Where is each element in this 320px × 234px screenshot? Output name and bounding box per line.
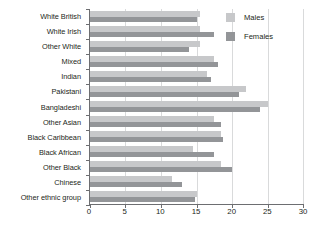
category-label: Other Black: [0, 160, 85, 175]
category-label: Black African: [0, 145, 85, 160]
bar-females: [90, 197, 195, 203]
category-label: Indian: [0, 69, 85, 84]
category-label: White British: [0, 9, 85, 24]
bar-group: [90, 84, 303, 99]
bar-females: [90, 122, 221, 128]
legend-swatch-males-icon: [226, 13, 235, 22]
legend-item-females: Females: [226, 32, 316, 41]
bar-females: [90, 182, 182, 188]
bar-females: [90, 137, 223, 143]
category-label: Bangladeshi: [0, 99, 85, 114]
legend-item-males: Males: [226, 13, 316, 22]
x-axis-tick-label: 5: [122, 207, 126, 216]
category-label: Other ethnic group: [0, 190, 85, 205]
category-axis-labels: White BritishWhite IrishOther WhiteMixed…: [0, 9, 85, 205]
bar-group: [90, 144, 303, 159]
chart-legend: Males Females: [226, 13, 316, 51]
bar-females: [90, 77, 211, 83]
bar-group: [90, 69, 303, 84]
x-axis-tick-labels: 051015202530: [89, 207, 303, 221]
bar-group: [90, 174, 303, 189]
x-axis-tick-label: 25: [263, 207, 272, 216]
category-label: White Irish: [0, 24, 85, 39]
x-axis-tick-label: 30: [299, 207, 308, 216]
legend-label-males: Males: [244, 13, 264, 22]
bar-chart: White BritishWhite IrishOther WhiteMixed…: [0, 0, 320, 234]
category-label: Black Caribbean: [0, 130, 85, 145]
legend-label-females: Females: [244, 32, 273, 41]
bar-females: [90, 47, 189, 53]
legend-swatch-females-icon: [226, 32, 235, 41]
category-label: Pakistani: [0, 84, 85, 99]
bar-females: [90, 62, 218, 68]
bar-group: [90, 114, 303, 129]
bar-group: [90, 99, 303, 114]
category-label: Mixed: [0, 54, 85, 69]
bar-females: [90, 92, 239, 98]
bar-females: [90, 167, 232, 173]
category-label: Other White: [0, 39, 85, 54]
y-axis-tick: [86, 205, 90, 206]
category-label: Chinese: [0, 175, 85, 190]
x-axis-tick-label: 15: [192, 207, 201, 216]
bar-females: [90, 32, 214, 38]
bar-group: [90, 54, 303, 69]
bar-group: [90, 189, 303, 204]
category-label: Other Asian: [0, 115, 85, 130]
x-axis-tick-label: 0: [87, 207, 91, 216]
x-axis-tick-label: 20: [227, 207, 236, 216]
bar-group: [90, 129, 303, 144]
bar-females: [90, 17, 197, 23]
bar-females: [90, 107, 260, 113]
x-axis-tick-label: 10: [156, 207, 165, 216]
bar-females: [90, 152, 214, 158]
bar-group: [90, 159, 303, 174]
